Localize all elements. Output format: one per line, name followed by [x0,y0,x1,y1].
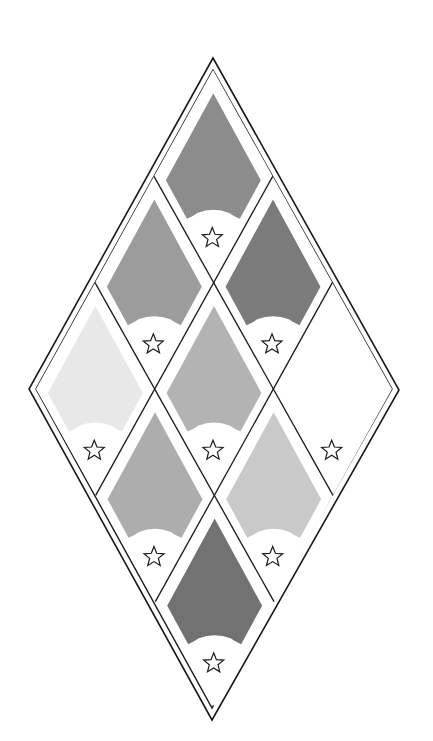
cell-grid [36,70,392,708]
board-canvas [0,0,433,741]
gem [166,93,261,219]
puzzle-board: Diamond gem puzzle board [0,0,433,741]
